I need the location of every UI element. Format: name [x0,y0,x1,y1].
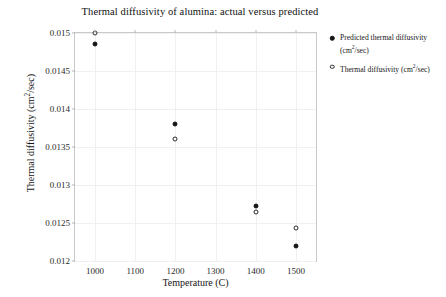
data-point [173,137,178,142]
y-tick-label: 0.0125 [45,218,75,228]
legend-label-predicted-line1: Predicted thermal diffusivity [340,33,427,42]
chart-legend: Predicted thermal diffusivity(cm2/sec) T… [327,33,443,81]
x-tick-mark [175,30,176,33]
gridline-horizontal [75,261,316,262]
data-point [293,226,298,231]
data-point [93,42,98,47]
x-axis-label: Temperature (C) [74,277,317,288]
data-point [253,210,258,215]
x-tick-mark [295,30,296,33]
x-tick-label: 1000 [86,266,104,276]
legend-label-actual-line1: Thermal diffusivity (cm [340,64,413,73]
x-tick-label: 1300 [207,266,225,276]
y-axis-label: Thermal diffusivity (cm2/sec) [24,33,36,233]
y-axis-label-text: Thermal diffusivity (cm [25,96,36,192]
y-tick-label: 0.012 [50,256,75,266]
plot-area: 0.0120.01250.0130.01350.0140.01450.01510… [74,32,317,262]
x-tick-mark [95,30,96,33]
data-point [173,122,178,127]
x-tick-mark [135,30,136,33]
y-axis-label-suffix: /sec) [25,74,36,93]
x-tick-label: 1500 [287,266,305,276]
legend-entry-actual[interactable]: Thermal diffusivity (cm2/sec) [327,62,443,74]
x-tick-label: 1200 [166,266,184,276]
y-tick-label: 0.013 [50,180,75,190]
legend-label-predicted-line2: (cm [340,45,352,54]
data-point [253,204,258,209]
legend-marker-open-circle-icon [327,64,337,72]
x-tick-mark [255,30,256,33]
y-axis-label-superscript: 2 [24,93,32,97]
legend-label-actual-line3: /sec) [416,64,430,73]
y-tick-label: 0.0145 [45,66,75,76]
legend-label-predicted-line3: /sec) [355,45,369,54]
x-tick-mark [215,30,216,33]
x-tick-label: 1100 [126,266,144,276]
legend-entry-predicted[interactable]: Predicted thermal diffusivity(cm2/sec) [327,33,443,55]
y-tick-label: 0.014 [50,104,75,114]
chart-title: Thermal diffusivity of alumina: actual v… [0,6,400,17]
y-tick-label: 0.015 [50,28,75,38]
legend-marker-filled-circle-icon [327,35,337,43]
data-points-layer [75,33,316,261]
y-tick-label: 0.0135 [45,142,75,152]
legend-label-actual: Thermal diffusivity (cm2/sec) [337,62,430,74]
x-tick-label: 1400 [247,266,265,276]
chart-figure: Thermal diffusivity of alumina: actual v… [0,0,446,297]
legend-label-predicted: Predicted thermal diffusivity(cm2/sec) [337,33,427,55]
data-point [293,243,298,248]
